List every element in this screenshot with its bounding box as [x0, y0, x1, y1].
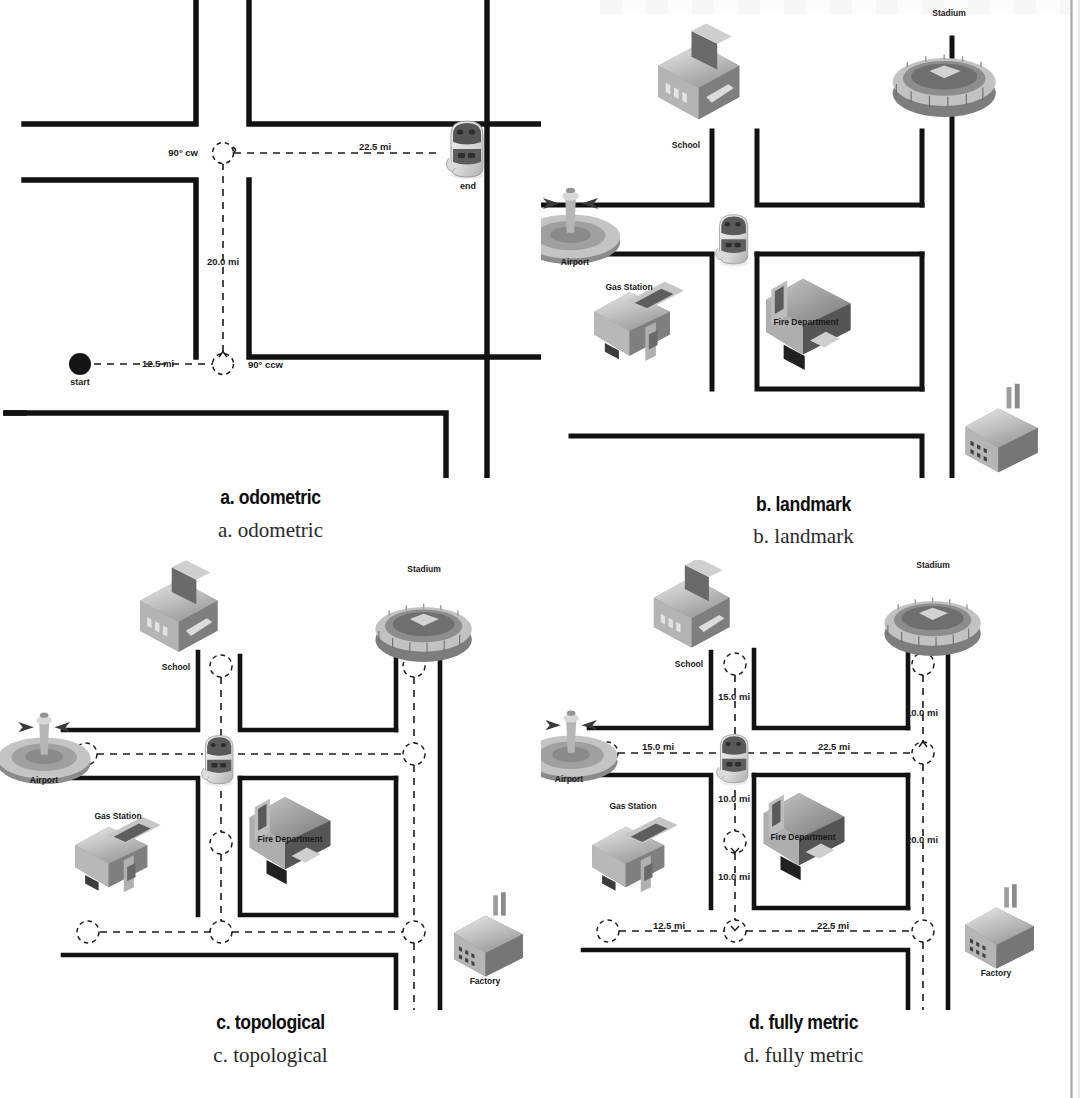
landmark-label-factory: Factory	[470, 976, 501, 986]
robot-icon	[447, 121, 484, 179]
robot-icon	[716, 215, 748, 267]
scan-artifact-right-light	[1078, 0, 1080, 1098]
node-south	[210, 921, 232, 943]
node-mid	[210, 832, 232, 854]
odometric-map-svg: 12.5 mi 20.0 mi 22.5 mi 90° ccw 90° cw s…	[0, 0, 541, 478]
edge-label-center-to-east: 22.5 mi	[818, 741, 850, 752]
topological-nodes	[75, 655, 425, 943]
landmark-label-stadium: Stadium	[916, 560, 950, 570]
edge-label-southwest-to-south: 12.5 mi	[653, 920, 685, 931]
landmark-label-fire-department: Fire Department	[770, 832, 835, 842]
node-school	[724, 653, 746, 675]
edge-label-mid-to-south: 10.0 mi	[718, 871, 750, 882]
landmark-label-school: School	[672, 140, 700, 150]
landmark-factory: Factory	[966, 384, 1038, 478]
landmark-label-airport: Airport	[555, 774, 584, 784]
landmark-label-gas-station: Gas Station	[94, 811, 141, 821]
landmark-fire-department: Fire Department	[764, 793, 845, 880]
fully-metric-map-svg: 15.0 mi 10.0 mi 15.0 mi 22.5 mi 10.0 mi …	[541, 560, 1066, 1010]
caption-c-bold: c. topological	[32, 1011, 508, 1034]
turn-label-ccw: 90° ccw	[248, 359, 284, 370]
node-southeast	[403, 921, 425, 943]
landmark-label-school: School	[162, 662, 190, 672]
start-label: start	[70, 377, 90, 387]
metric-nodes	[596, 653, 934, 942]
landmark-label-stadium: Stadium	[407, 564, 441, 574]
landmark-fire-department: Fire Department	[250, 797, 331, 884]
scan-artifact-right	[1070, 0, 1073, 1098]
landmark-label-fire-department: Fire Department	[257, 834, 322, 844]
turn-node-ccw	[213, 354, 234, 375]
landmark-airport: Airport	[541, 188, 620, 267]
edge-label-airport-to-center: 15.0 mi	[642, 741, 674, 752]
edge-label-center-to-mid: 10.0 mi	[718, 793, 750, 804]
node-stadium	[912, 653, 934, 675]
landmark-map-svg: School	[541, 0, 1066, 478]
landmark-label-fire-department: Fire Department	[773, 317, 838, 327]
turn-node-cw	[213, 143, 234, 164]
node-southwest	[77, 921, 99, 943]
landmark-factory: Factory	[965, 884, 1034, 978]
landmark-gas-station: Gas Station	[75, 811, 161, 892]
landmark-label-factory: Factory	[981, 968, 1012, 978]
figure-page: 12.5 mi 20.0 mi 22.5 mi 90° ccw 90° cw s…	[0, 0, 1082, 1098]
node-southwest	[597, 920, 619, 942]
panel-fully-metric: 15.0 mi 10.0 mi 15.0 mi 22.5 mi 10.0 mi …	[541, 560, 1066, 1010]
node-east	[912, 742, 934, 764]
landmark-airport: Airport	[541, 711, 618, 784]
panel-topological: School	[0, 560, 541, 1010]
landmark-label-gas-station: Gas Station	[609, 801, 656, 811]
landmark-stadium: Stadium	[884, 560, 980, 656]
node-mid	[724, 831, 746, 853]
node-school	[210, 655, 232, 677]
caption-a-serif: a. odometric	[0, 518, 541, 543]
edge-label-east-to-southeast: 20.0 mi	[906, 834, 938, 845]
landmark-label-school: School	[675, 659, 703, 669]
start-marker	[69, 353, 91, 375]
landmark-gas-station: Gas Station	[594, 282, 684, 361]
landmark-label-airport: Airport	[30, 775, 59, 785]
turn-label-cw: 90° cw	[168, 147, 198, 158]
caption-b-serif: b. landmark	[541, 524, 1066, 549]
node-southeast	[912, 920, 934, 942]
road-network-a	[6, 0, 541, 478]
panel-odometric: 12.5 mi 20.0 mi 22.5 mi 90° ccw 90° cw s…	[0, 0, 541, 478]
edge-label-20mi: 20.0 mi	[207, 256, 239, 267]
edge-label-22-5mi: 22.5 mi	[359, 141, 391, 152]
landmark-gas-station: Gas Station	[592, 801, 678, 892]
robot-icon	[202, 736, 233, 787]
landmark-school: School	[658, 24, 739, 150]
landmark-label-airport: Airport	[561, 257, 590, 267]
landmark-label-stadium: Stadium	[932, 8, 966, 18]
landmark-school: School	[140, 560, 217, 672]
caption-b-bold: b. landmark	[573, 493, 1035, 516]
caption-d-bold: d. fully metric	[573, 1011, 1035, 1034]
landmark-factory: Factory	[454, 892, 523, 986]
landmark-fire-department: Fire Department	[766, 279, 850, 370]
end-label: end	[460, 181, 476, 191]
edge-label-stadium-to-east: 10.0 mi	[906, 707, 938, 718]
landmark-school: School	[654, 560, 730, 669]
caption-d-serif: d. fully metric	[541, 1043, 1066, 1068]
landmark-airport: Airport	[0, 713, 91, 785]
landmark-label-gas-station: Gas Station	[605, 282, 652, 292]
edge-label-south-to-southeast: 22.5 mi	[817, 920, 849, 931]
landmark-stadium: Stadium	[375, 564, 471, 662]
topological-map-svg: School	[0, 560, 541, 1010]
edge-label-school-to-center: 15.0 mi	[718, 691, 750, 702]
node-east	[403, 743, 425, 765]
caption-c-serif: c. topological	[0, 1043, 541, 1068]
edge-label-12-5mi: 12.5 mi	[142, 358, 174, 369]
landmark-stadium: Stadium	[893, 8, 996, 117]
robot-icon	[717, 735, 748, 786]
caption-a-bold: a. odometric	[32, 486, 508, 509]
panel-landmark: School	[541, 0, 1066, 478]
